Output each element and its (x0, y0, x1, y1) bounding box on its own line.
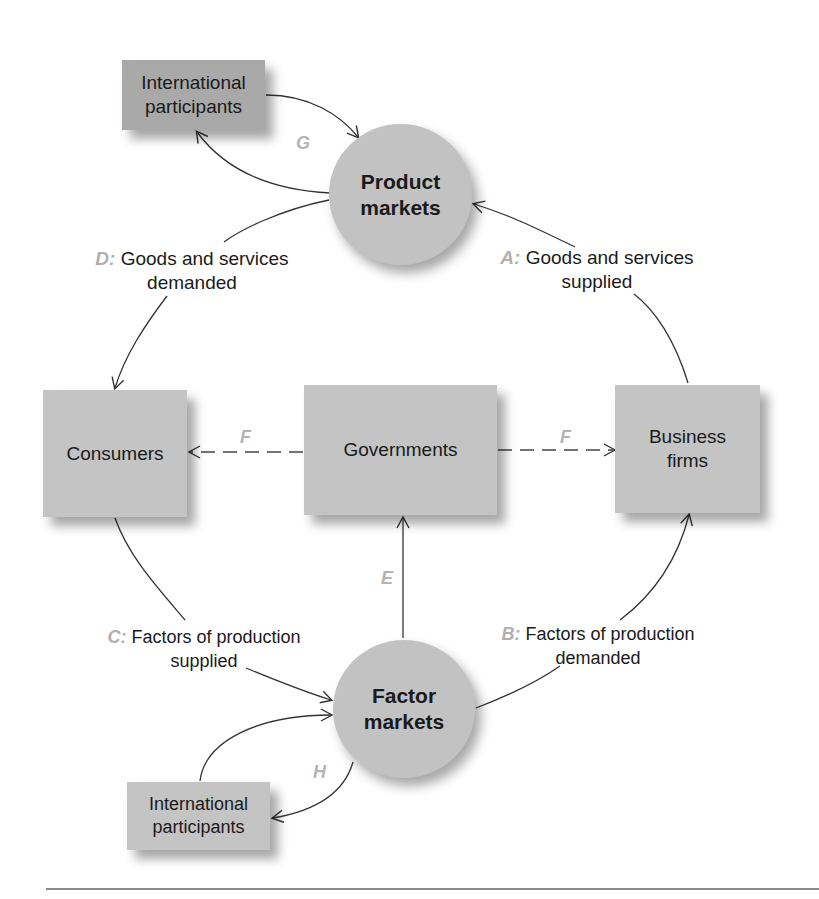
flow-e-letter: E (381, 568, 393, 589)
flow-f-right-letter: F (560, 427, 571, 448)
international-participants-top: International participants (122, 60, 265, 130)
flow-c-label: C: Factors of production supplied (84, 625, 324, 673)
flow-f-left-letter: F (240, 427, 251, 448)
bottom-rule-divider (46, 888, 819, 890)
product-markets-line1: Product (361, 169, 440, 195)
factor-markets-line1: Factor (372, 683, 436, 709)
flow-g-in-arrow (266, 95, 358, 137)
intl-top-line2: participants (145, 95, 242, 119)
flow-c-letter: C: (107, 627, 126, 647)
international-participants-bottom: International participants (127, 782, 270, 850)
flow-g-out-arrow (197, 132, 330, 193)
flow-b-letter: B: (501, 624, 520, 644)
circular-flow-diagram: International participants Product marke… (0, 0, 819, 899)
flow-a-letter: A: (500, 247, 520, 268)
governments-node: Governments (304, 385, 497, 515)
product-markets-node: Product markets (329, 124, 472, 265)
flow-d-arrow (224, 200, 329, 242)
factor-markets-node: Factor markets (333, 640, 475, 778)
flow-b-label: B: Factors of production demanded (478, 622, 718, 670)
flow-d-letter: D: (95, 248, 115, 269)
intl-top-line1: International (141, 71, 246, 95)
flow-a-label: A: Goods and services supplied (482, 246, 712, 294)
consumers-label: Consumers (66, 442, 163, 466)
flow-g-letter: G (296, 133, 310, 154)
flow-c-arrow (115, 518, 185, 620)
intl-bottom-line1: International (149, 793, 248, 816)
flow-b-arrow (476, 666, 560, 708)
product-markets-line2: markets (360, 195, 441, 221)
business-firms-line2: firms (667, 449, 708, 473)
business-firms-line1: Business (649, 425, 726, 449)
flow-d-label: D: Goods and services demanded (82, 247, 302, 295)
flow-a-arrow (634, 294, 688, 383)
consumers-node: Consumers (43, 390, 187, 517)
factor-markets-line2: markets (364, 709, 445, 735)
business-firms-node: Business firms (615, 385, 760, 513)
flow-h-in-arrow (200, 715, 331, 781)
flow-h-letter: H (313, 762, 326, 783)
governments-label: Governments (343, 438, 457, 462)
intl-bottom-line2: participants (152, 816, 244, 839)
